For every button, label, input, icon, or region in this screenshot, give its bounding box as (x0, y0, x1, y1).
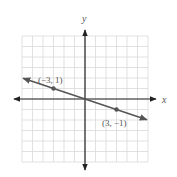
point-3-neg1 (114, 107, 118, 111)
point-neg3-1 (51, 86, 55, 90)
coordinate-plane: x y (−3, 1) (3, −1) (0, 0, 177, 177)
y-axis-label: y (81, 13, 87, 24)
point-b-label: (3, −1) (102, 118, 127, 128)
x-axis-label: x (161, 94, 167, 105)
point-a-label: (−3, 1) (38, 75, 63, 85)
